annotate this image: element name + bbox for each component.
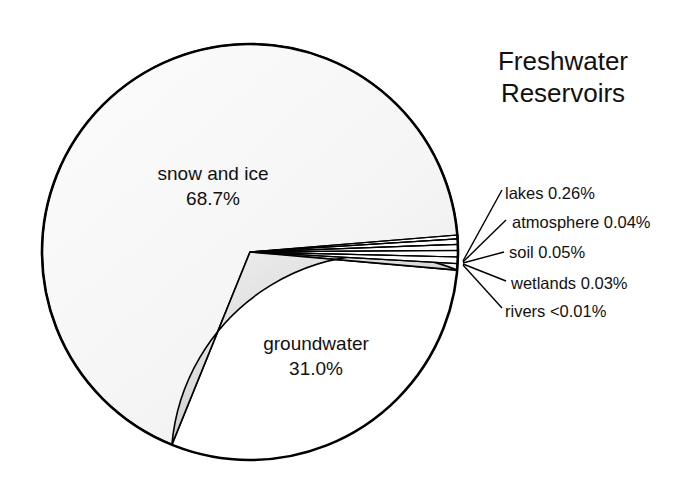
slice-label-snow-and-ice-name: snow and ice — [158, 163, 269, 184]
callout-leader-lines — [463, 190, 506, 308]
pie-chart-figure: Freshwater Reservoirs snow and ice 68.7%… — [0, 0, 687, 487]
chart-title-line2: Reservoirs — [501, 78, 625, 108]
slice-label-snow-and-ice-value: 68.7% — [186, 188, 240, 209]
slice-label-groundwater-value: 31.0% — [289, 358, 343, 379]
leader-line-atmosphere — [463, 220, 506, 262]
slice-label-groundwater-name: groundwater — [263, 333, 369, 354]
chart-title-line1: Freshwater — [498, 46, 628, 76]
callout-label-rivers: rivers <0.01% — [505, 302, 607, 320]
callout-label-soil: soil 0.05% — [509, 243, 585, 261]
leader-line-soil — [463, 252, 504, 263]
callout-label-atmosphere: atmosphere 0.04% — [512, 213, 651, 231]
pie-chart-svg: Freshwater Reservoirs snow and ice 68.7%… — [0, 0, 687, 487]
leader-line-lakes — [463, 190, 502, 261]
callout-label-lakes: lakes 0.26% — [505, 184, 595, 202]
callout-label-wetlands: wetlands 0.03% — [510, 274, 628, 292]
